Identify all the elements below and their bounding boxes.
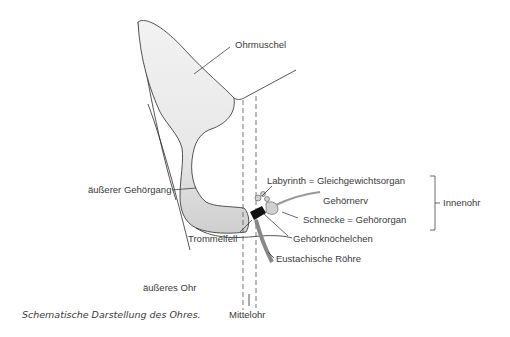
- label-innenohr: Innenohr: [443, 198, 481, 208]
- label-mittelohr: Mittelohr: [229, 310, 265, 320]
- label-ohrmuschel: Ohrmuschel: [235, 40, 286, 50]
- eardrum: [250, 206, 266, 220]
- head-top-line: [234, 70, 296, 100]
- label-aeusserer-gehoergang: äußerer Gehörgang: [88, 185, 171, 195]
- ear-diagram-drawing: [0, 0, 510, 337]
- label-gehoerknoechelchen: Gehörknöchelchen: [293, 234, 373, 244]
- label-labyrinth: Labyrinth = Gleichgewichtsorgan: [267, 176, 405, 186]
- label-aeusseres-ohr: äußeres Ohr: [143, 283, 196, 293]
- label-trommelfell: Trommelfell: [188, 234, 237, 244]
- label-eustachische-roehre: Eustachische Röhre: [276, 254, 361, 264]
- auricle-shape: [138, 20, 249, 233]
- figure-caption: Schematische Darstellung des Ohres.: [22, 310, 201, 320]
- eustachian-tube: [256, 220, 272, 262]
- label-gehoernerv: Gehörnerv: [323, 196, 368, 206]
- label-schnecke: Schnecke = Gehörorgan: [303, 215, 406, 225]
- auditory-nerve: [276, 192, 320, 205]
